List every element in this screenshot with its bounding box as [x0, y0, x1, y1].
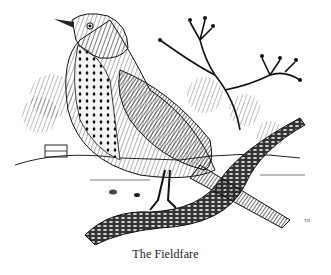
- figure-caption: The Fieldfare: [0, 247, 331, 262]
- woodcut-illustration: [0, 0, 331, 245]
- engraver-signature: TB: [304, 218, 310, 223]
